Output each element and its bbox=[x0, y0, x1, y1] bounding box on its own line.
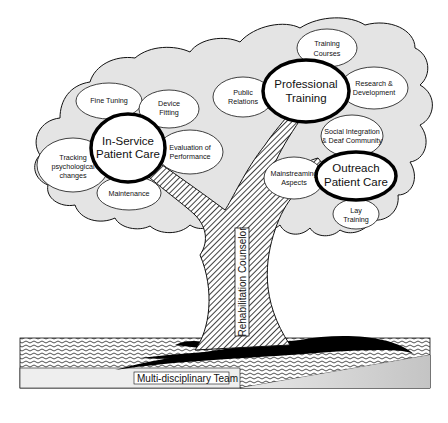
svg-text:In-Service: In-Service bbox=[102, 135, 154, 147]
svg-text:Device: Device bbox=[158, 99, 180, 108]
hub-professional-training: Professional Training bbox=[263, 60, 349, 122]
svg-text:changes: changes bbox=[59, 171, 87, 180]
svg-text:Evaluation of: Evaluation of bbox=[169, 143, 211, 152]
leaf-lay-training: Lay Training bbox=[333, 199, 379, 229]
svg-text:Patient Care: Patient Care bbox=[324, 176, 388, 188]
svg-text:Rehabilitation Counselor: Rehabilitation Counselor bbox=[237, 227, 248, 337]
svg-text:Aspects: Aspects bbox=[281, 178, 307, 187]
svg-text:psychological: psychological bbox=[51, 162, 95, 171]
svg-text:Training: Training bbox=[285, 92, 326, 104]
trunk-label: Rehabilitation Counselor bbox=[235, 227, 249, 337]
svg-text:& Deaf Community: & Deaf Community bbox=[322, 136, 383, 145]
svg-text:Professional: Professional bbox=[274, 78, 337, 90]
svg-text:Multi-disciplinary Team: Multi-disciplinary Team bbox=[137, 373, 238, 384]
svg-text:Tracking: Tracking bbox=[59, 153, 86, 162]
svg-text:Outreach: Outreach bbox=[332, 162, 379, 174]
svg-text:Training: Training bbox=[314, 39, 340, 48]
svg-text:Public: Public bbox=[233, 88, 253, 97]
tree-diagram: Rehabilitation Counselor Multi-disciplin… bbox=[0, 0, 448, 423]
leaf-evaluation: Evaluation of Performance bbox=[157, 130, 223, 174]
svg-text:Fitting: Fitting bbox=[159, 108, 179, 117]
svg-text:Courses: Courses bbox=[314, 49, 341, 58]
svg-text:Patient Care: Patient Care bbox=[96, 148, 160, 160]
roots-label: Multi-disciplinary Team bbox=[134, 372, 238, 384]
svg-text:Performance: Performance bbox=[169, 152, 210, 161]
hub-outreach-patient-care: Outreach Patient Care bbox=[316, 152, 396, 200]
svg-text:Research &: Research & bbox=[355, 79, 393, 88]
svg-text:Mainstreaming: Mainstreaming bbox=[270, 169, 317, 178]
svg-text:Lay: Lay bbox=[350, 206, 362, 215]
hub-in-service-patient-care: In-Service Patient Care bbox=[91, 114, 165, 182]
svg-text:Training: Training bbox=[343, 215, 369, 224]
svg-text:Fine Tuning: Fine Tuning bbox=[90, 96, 128, 105]
svg-text:Development: Development bbox=[353, 88, 395, 97]
svg-text:Relations: Relations bbox=[228, 97, 258, 106]
svg-text:Maintenance: Maintenance bbox=[108, 189, 149, 198]
svg-text:Social Integration: Social Integration bbox=[324, 127, 380, 136]
